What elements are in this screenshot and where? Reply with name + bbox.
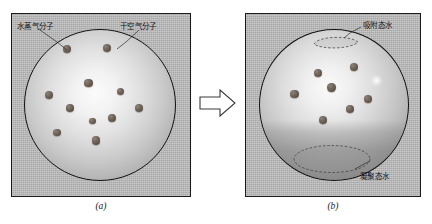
- molecule: [45, 91, 53, 99]
- right-arrow-icon: [199, 88, 237, 118]
- molecule: [92, 136, 100, 144]
- molecule: [290, 90, 298, 98]
- label-dry-air-molecule: 干空气分子: [120, 20, 157, 31]
- molecule: [135, 104, 143, 112]
- molecule: [84, 79, 92, 87]
- molecule: [314, 69, 322, 77]
- figure-root: 水蒸气分子 干空气分子 吸附态水 凝聚态水 (a) (b): [0, 0, 432, 224]
- molecule: [63, 45, 71, 53]
- molecule: [66, 104, 74, 112]
- label-adsorbed-water: 吸附态水: [363, 19, 392, 30]
- panel-b: [245, 13, 421, 197]
- label-water-vapor-molecule: 水蒸气分子: [17, 20, 54, 31]
- caption-panel-b: (b): [313, 201, 353, 211]
- molecule: [319, 116, 327, 124]
- molecule: [89, 118, 95, 124]
- pore-sphere-a: [24, 29, 176, 181]
- molecule: [346, 105, 354, 113]
- molecule: [327, 83, 335, 91]
- caption-panel-a: (a): [81, 201, 121, 211]
- molecule: [364, 95, 372, 103]
- specular-highlight: [370, 75, 383, 86]
- molecule: [53, 129, 61, 137]
- panel-a: [11, 13, 191, 197]
- pore-sphere-b: [259, 29, 409, 181]
- label-condensed-water: 凝聚态水: [360, 170, 389, 181]
- sphere-body-a: [24, 29, 176, 181]
- sphere-body-b: [259, 29, 409, 181]
- molecule: [108, 114, 116, 122]
